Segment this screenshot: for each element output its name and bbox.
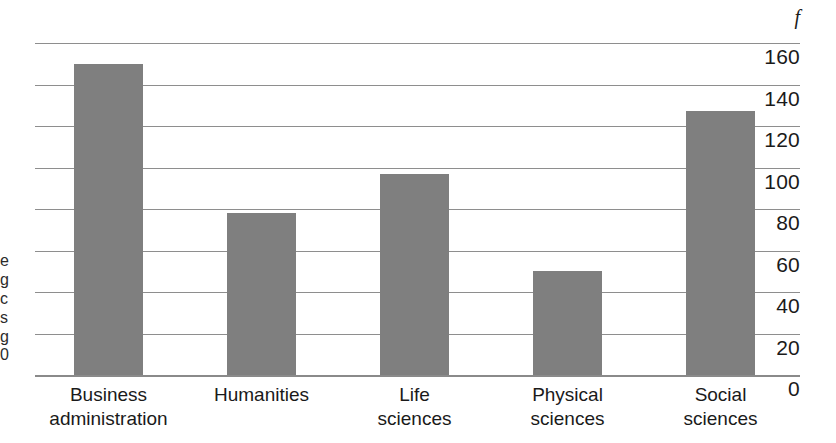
gridline-160 bbox=[35, 43, 800, 44]
page-margin-text-fragment: e g c s g 0 bbox=[0, 252, 14, 365]
y-tick-label-60: 60 bbox=[730, 254, 800, 275]
bar-social-sciences[interactable] bbox=[686, 111, 755, 375]
category-label-line: Humanities bbox=[214, 384, 309, 405]
y-axis-symbol-label: f bbox=[730, 6, 800, 29]
category-label-humanities: Humanities bbox=[185, 383, 338, 407]
category-label-life-sciences: Lifesciences bbox=[338, 383, 491, 431]
category-label-line: sciences bbox=[491, 407, 644, 431]
margin-fragment: s bbox=[0, 309, 14, 328]
bar-humanities[interactable] bbox=[227, 213, 296, 375]
bar-chart-figure: f e g c s g 0 160140120100806040200 Busi… bbox=[0, 0, 836, 443]
category-label-line: administration bbox=[32, 407, 185, 431]
margin-fragment: e bbox=[0, 252, 14, 271]
y-tick-label-80: 80 bbox=[730, 212, 800, 233]
margin-fragment: 0 bbox=[0, 346, 14, 365]
category-label-line: sciences bbox=[644, 407, 797, 431]
category-label-line: Business bbox=[70, 384, 147, 405]
bar-business-administration[interactable] bbox=[74, 64, 143, 375]
margin-fragment: c bbox=[0, 290, 14, 309]
margin-fragment: g bbox=[0, 328, 14, 347]
y-tick-label-160: 160 bbox=[730, 46, 800, 67]
y-tick-label-20: 20 bbox=[730, 337, 800, 358]
bar-life-sciences[interactable] bbox=[380, 174, 449, 375]
category-label-line: Life bbox=[399, 384, 430, 405]
margin-fragment: g bbox=[0, 271, 14, 290]
bar-physical-sciences[interactable] bbox=[533, 271, 602, 375]
category-label-line: Physical bbox=[532, 384, 603, 405]
category-label-social-sciences: Socialsciences bbox=[644, 383, 797, 431]
category-label-physical-sciences: Physicalsciences bbox=[491, 383, 644, 431]
category-label-line: sciences bbox=[338, 407, 491, 431]
y-tick-label-100: 100 bbox=[730, 171, 800, 192]
y-tick-label-140: 140 bbox=[730, 88, 800, 109]
category-label-line: Social bbox=[695, 384, 747, 405]
gridline-140 bbox=[35, 85, 800, 86]
category-label-business-administration: Businessadministration bbox=[32, 383, 185, 431]
y-tick-label-40: 40 bbox=[730, 295, 800, 316]
plot-area bbox=[35, 43, 800, 375]
y-tick-label-120: 120 bbox=[730, 129, 800, 150]
x-axis-baseline bbox=[35, 375, 800, 377]
